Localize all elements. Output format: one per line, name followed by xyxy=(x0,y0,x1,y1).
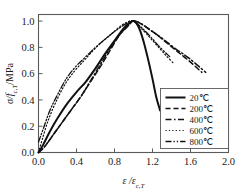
legend-label-1: 200℃ xyxy=(190,104,214,114)
y-tick-label: 0.0 xyxy=(21,147,34,158)
curve-solid xyxy=(39,21,161,152)
x-tick-label: 1.2 xyxy=(146,156,159,167)
x-tick-labels: 0.00.40.81.21.62.0 xyxy=(32,156,235,167)
legend-label-3: 600℃ xyxy=(190,126,214,136)
y-tick-label: 1.0 xyxy=(21,16,34,27)
legend-label-2: 400℃ xyxy=(190,115,214,125)
x-tick-label: 0.4 xyxy=(70,156,84,167)
x-tick-label: 0.8 xyxy=(108,156,121,167)
y-tick-label: 0.4 xyxy=(21,95,35,106)
figure-container: 0.00.40.81.21.62.0 0.00.20.40.60.81.0 20… xyxy=(0,0,241,196)
y-tick-labels: 0.00.20.40.60.81.0 xyxy=(21,16,35,158)
legend-label-0: 20℃ xyxy=(190,93,209,103)
y-tick-label: 0.6 xyxy=(21,68,34,79)
chart-legend: 20℃200℃400℃600℃800℃ xyxy=(161,89,229,149)
x-tick-label: 2.0 xyxy=(222,156,235,167)
y-axis-title: σ/fc,T/MPa xyxy=(4,62,19,103)
y-tick-label: 0.2 xyxy=(21,121,34,132)
x-tick-label: 1.6 xyxy=(184,156,197,167)
curve-dash-dot-dot xyxy=(39,21,170,142)
x-axis-title: ε /εc,T xyxy=(123,175,146,190)
y-tick-label: 0.8 xyxy=(21,42,34,53)
legend-label-4: 800℃ xyxy=(190,137,214,147)
stress-strain-chart: 0.00.40.81.21.62.0 0.00.20.40.60.81.0 20… xyxy=(0,0,241,196)
